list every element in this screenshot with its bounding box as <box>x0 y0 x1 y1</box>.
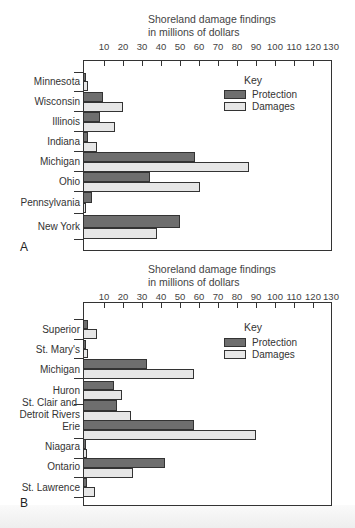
bar-damages-ontario <box>83 468 133 478</box>
tick-label-20: 20 <box>118 291 129 302</box>
bar-protection-niagara <box>83 439 86 449</box>
bar-damages-st-marys <box>83 349 88 358</box>
bar-protection-superior <box>83 320 88 329</box>
bar-protection-st-marys <box>83 340 86 349</box>
tick-label-130: 130 <box>323 291 339 302</box>
bar-damages-erie <box>83 430 256 440</box>
bar-protection-ontario <box>83 458 165 468</box>
tick-mark <box>237 302 238 308</box>
bar-protection-st-clair-detroit <box>83 400 117 411</box>
tick-mark <box>199 302 200 308</box>
bar-protection-erie <box>83 420 194 430</box>
tick-label-50: 50 <box>175 291 186 302</box>
chart-b: Shoreland damage findings in millions of… <box>0 0 355 528</box>
category-label-erie: Erie <box>62 421 80 432</box>
bar-damages-huron <box>83 390 122 400</box>
tick-mark <box>313 302 314 308</box>
bar-damages-superior <box>83 329 97 339</box>
category-label-michigan: Michigan <box>40 364 80 375</box>
tick-label-110: 110 <box>286 291 301 302</box>
bar-protection-huron <box>83 381 114 390</box>
category-label-st-clair-line1: St. Clair and <box>22 397 77 408</box>
legend-label-protection: Protection <box>252 337 297 348</box>
category-label-huron: Huron <box>53 385 80 396</box>
tick-label-30: 30 <box>137 291 148 302</box>
legend-title: Key <box>244 321 262 333</box>
category-label-niagara: Niagara <box>45 441 80 452</box>
tick-label-70: 70 <box>213 291 224 302</box>
tick-label-40: 40 <box>156 291 167 302</box>
tick-label-60: 60 <box>194 291 205 302</box>
bar-damages-michigan <box>83 369 194 379</box>
category-label-st-marys: St. Mary's <box>36 344 80 355</box>
tick-label-100: 100 <box>267 291 283 302</box>
tick-mark <box>256 302 257 308</box>
tick-mark <box>275 302 276 308</box>
legend-swatch-damages <box>224 350 246 359</box>
tick-mark <box>104 302 105 308</box>
row-separator <box>74 497 84 498</box>
tick-label-120: 120 <box>305 291 321 302</box>
category-label-superior: Superior <box>42 324 80 335</box>
legend-swatch-protection <box>224 338 246 347</box>
bar-protection-st-lawrence <box>83 478 87 487</box>
category-label-st-clair-line2: Detroit Rivers <box>19 409 80 420</box>
tick-mark <box>161 302 162 308</box>
legend-label-damages: Damages <box>252 349 295 360</box>
category-label-ontario: Ontario <box>47 461 80 472</box>
tick-mark <box>218 302 219 308</box>
chart-b-title-line1: Shoreland damage findings <box>148 263 276 275</box>
tick-label-10: 10 <box>99 291 110 302</box>
bar-damages-niagara <box>83 449 87 458</box>
bar-protection-michigan <box>83 359 147 369</box>
bar-damages-st-lawrence <box>83 487 95 497</box>
category-label-st-lawrence: St. Lawrence <box>22 482 80 493</box>
tick-label-90: 90 <box>251 291 262 302</box>
tick-mark <box>180 302 181 308</box>
tick-mark <box>123 302 124 308</box>
tick-mark <box>294 302 295 308</box>
panel-label-b: B <box>20 496 28 510</box>
chart-b-title-line2: in millions of dollars <box>148 276 240 288</box>
tick-label-80: 80 <box>232 291 243 302</box>
tick-mark <box>142 302 143 308</box>
